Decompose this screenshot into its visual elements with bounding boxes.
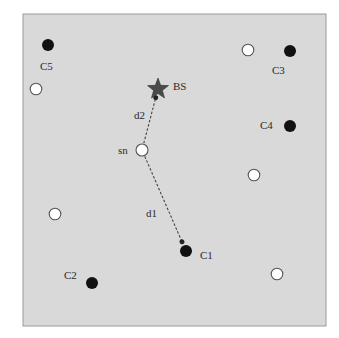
base-station-label: BS <box>173 80 186 92</box>
cluster-head-c3 <box>284 45 296 57</box>
cluster-head-c5 <box>42 39 54 51</box>
ordinary-node <box>49 208 61 220</box>
cluster-head-label: C4 <box>260 119 273 131</box>
link-label-d1: d1 <box>146 207 157 219</box>
ordinary-node <box>242 44 254 56</box>
source-node-circle <box>136 144 148 156</box>
cluster-head-label: C3 <box>272 64 285 76</box>
cluster-head-c1 <box>180 245 192 257</box>
ordinary-node <box>248 169 260 181</box>
cluster-head-c2 <box>86 277 98 289</box>
cluster-head-label: C5 <box>40 60 53 72</box>
cluster-head-label: C1 <box>200 249 213 261</box>
link-label-d2: d2 <box>134 109 145 121</box>
cluster-head-c4 <box>284 120 296 132</box>
network-diagram: d1d2 C1C2C3C4C5 BS sn <box>0 0 339 338</box>
ordinary-node <box>271 268 283 280</box>
ordinary-node <box>30 83 42 95</box>
cluster-head-label: C2 <box>64 269 77 281</box>
source-node-label: sn <box>118 144 128 156</box>
